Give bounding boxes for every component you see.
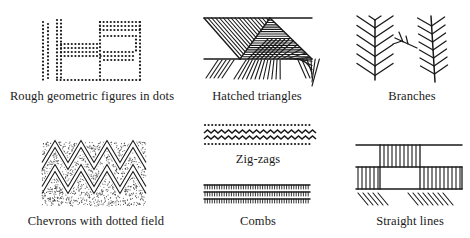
combs-figure [204,184,312,206]
label-branches: Branches [388,89,435,104]
dots-figure [38,18,148,84]
label-combs: Combs [240,214,276,229]
chevrons-figure [42,142,148,206]
label-dots: Rough geometric figures in dots [10,89,174,104]
hatched-triangles-figure [204,16,314,82]
straight-lines-figure [356,143,464,209]
zigzags-figure [204,123,312,147]
label-hatched-triangles: Hatched triangles [212,89,302,104]
label-straight-lines: Straight lines [376,214,444,229]
label-chevrons: Chevrons with dotted field [28,214,164,229]
branches-figure [355,14,465,82]
label-zigzags: Zig-zags [236,152,281,167]
